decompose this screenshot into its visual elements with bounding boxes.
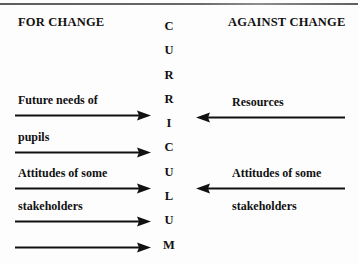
label-stakeholders-right: stakeholders [232,199,297,214]
label-attitudes-of-some-right: Attitudes of some [232,166,321,181]
spine-letter: U [156,38,182,62]
spine-letter: R [156,63,182,87]
top-divider-rule [0,3,358,5]
spine-letter: U [156,160,182,184]
spine-letter: C [156,135,182,159]
arrow-right-icon [15,183,151,194]
spine-letter: U [156,208,182,232]
arrow-left-icon [196,112,345,123]
label-future-needs-of: Future needs of [18,93,98,108]
diagram-canvas: FOR CHANGE AGAINST CHANGE C U R R I C U … [0,0,358,264]
label-pupils: pupils [18,130,49,145]
arrow-left-icon [196,183,345,194]
label-attitudes-of-some-left: Attitudes of some [18,166,107,181]
arrow-right-icon [15,110,151,121]
spine-letter: L [156,184,182,208]
spine-letter: R [156,87,182,111]
label-stakeholders-left: stakeholders [18,199,83,214]
arrow-right-icon [15,147,151,158]
arrow-right-icon [15,242,151,253]
spine-letter: C [156,14,182,38]
curriculum-spine: C U R R I C U L U M [156,14,182,257]
label-resources: Resources [232,95,284,110]
spine-letter: M [156,233,182,257]
column-heading-for-change: FOR CHANGE [18,15,104,30]
column-heading-against-change: AGAINST CHANGE [228,15,346,30]
spine-letter: I [156,111,182,135]
arrow-right-icon [15,216,151,227]
